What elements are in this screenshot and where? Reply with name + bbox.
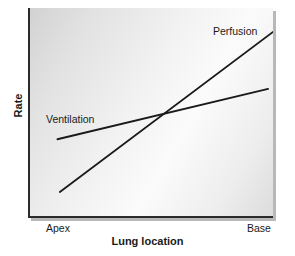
series-line-perfusion xyxy=(60,32,273,192)
y-axis-title: Rate xyxy=(13,76,24,136)
x-axis-title: Lung location xyxy=(0,236,295,247)
chart-figure: Rate Lung location Apex Base Ventilation… xyxy=(0,0,295,256)
series-label-perfusion: Perfusion xyxy=(213,26,257,37)
x-tick-label-base: Base xyxy=(237,223,281,234)
series-label-ventilation: Ventilation xyxy=(46,114,94,125)
x-tick-label-apex: Apex xyxy=(36,223,80,234)
